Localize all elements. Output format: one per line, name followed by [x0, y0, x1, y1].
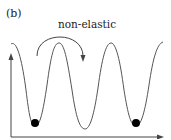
- particle-ball-left: [31, 119, 39, 127]
- potential-curve: [11, 42, 163, 129]
- x-axis-arrow-icon: [157, 135, 164, 140]
- particle-ball-right: [132, 119, 140, 127]
- y-axis-arrow-icon: [9, 53, 14, 60]
- transition-arc: [37, 37, 83, 56]
- transition-arrowhead-icon: [81, 55, 86, 62]
- potential-diagram: [0, 0, 171, 139]
